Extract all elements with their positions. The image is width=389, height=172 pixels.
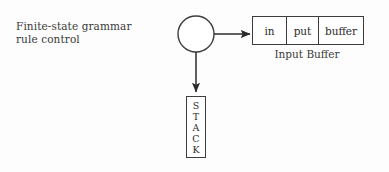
stack-letter: C (192, 133, 199, 144)
input-buffer-cell: in (253, 17, 287, 44)
stack-letter: T (193, 111, 199, 122)
input-buffer: in put buffer (252, 16, 364, 45)
stack-letter: K (192, 144, 199, 155)
input-buffer-caption: Input Buffer (252, 48, 362, 60)
stack-letter: A (193, 122, 200, 133)
stack-letter: S (193, 100, 200, 111)
input-buffer-cell: buffer (319, 17, 363, 44)
stack-box: S T A C K (186, 96, 206, 158)
control-state-circle (178, 16, 214, 52)
diagram-canvas: Finite-state grammar rule control in put… (0, 0, 389, 172)
input-buffer-cell: put (287, 17, 319, 44)
